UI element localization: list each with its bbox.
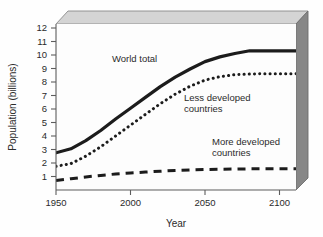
annotation-less-developed-line1: Less developed [184, 92, 251, 103]
y-tick-label: 8 [42, 76, 47, 87]
annotation-world-total: World total [112, 53, 157, 64]
y-tick-label: 12 [36, 22, 47, 33]
y-tick-label: 11 [37, 36, 47, 47]
plot-area-background [56, 24, 296, 190]
frame-right-panel [296, 11, 308, 190]
y-tick-label: 4 [42, 130, 47, 141]
y-tick-label: 3 [42, 144, 47, 155]
x-tick-label: 2100 [269, 197, 290, 208]
x-tick-labels: 1950 2000 2050 2100 [45, 197, 290, 208]
y-axis-ticks [51, 28, 56, 177]
y-tick-label: 9 [42, 63, 47, 74]
y-tick-label: 2 [42, 157, 47, 168]
y-tick-label: 7 [42, 90, 47, 101]
y-tick-label: 10 [36, 49, 47, 60]
x-axis-title: Year [166, 218, 187, 229]
annotation-more-developed-line2: countries [212, 147, 251, 158]
annotation-more-developed-line1: More developed [212, 136, 280, 147]
y-tick-label: 5 [42, 117, 47, 128]
chart-canvas: 12 11 10 9 8 7 6 5 4 3 2 1 1950 2000 205… [0, 0, 323, 237]
annotation-less-developed-line2: countries [184, 103, 223, 114]
y-axis-title: Population (billions) [7, 63, 18, 150]
x-tick-label: 2050 [194, 197, 215, 208]
y-tick-label: 1 [42, 171, 47, 182]
x-tick-label: 1950 [45, 197, 66, 208]
frame-top-panel [56, 11, 308, 24]
y-tick-label: 6 [42, 103, 47, 114]
x-axis-ticks [56, 190, 280, 195]
population-projection-chart: 12 11 10 9 8 7 6 5 4 3 2 1 1950 2000 205… [0, 0, 323, 237]
x-tick-label: 2000 [120, 197, 141, 208]
y-tick-labels: 12 11 10 9 8 7 6 5 4 3 2 1 [36, 22, 47, 182]
